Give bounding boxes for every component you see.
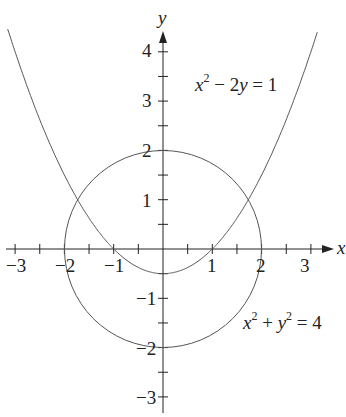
circle-equation-label: x2 + y2 = 4 [243, 313, 322, 332]
y-axis-label: y [158, 8, 166, 27]
x-tick-label: 2 [256, 256, 266, 275]
y-tick-label: 1 [142, 191, 152, 210]
y-tick-label: 4 [142, 41, 152, 60]
x-tick-label: −2 [55, 256, 75, 275]
y-tick-label: −2 [136, 339, 156, 358]
parabola-curve [8, 29, 318, 274]
parabola-equation-label: x2 − 2y = 1 [195, 75, 277, 94]
x-tick-label: 3 [300, 256, 310, 275]
x-axis-arrow-icon [322, 245, 334, 253]
y-tick-label: −3 [136, 388, 156, 407]
y-axis-arrow-icon [159, 31, 167, 43]
x-tick-label: 1 [207, 256, 217, 275]
plot-canvas [0, 0, 346, 417]
y-tick-label: 3 [142, 91, 152, 110]
x-axis-label: x [337, 238, 345, 257]
y-tick-label: −1 [136, 289, 156, 308]
x-tick-label: −3 [6, 256, 26, 275]
x-tick-label: −1 [104, 256, 124, 275]
y-tick-label: 2 [142, 141, 152, 160]
